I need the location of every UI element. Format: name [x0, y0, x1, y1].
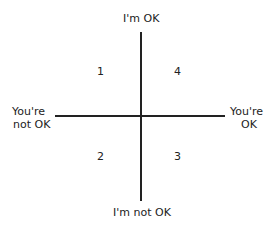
quadrant-1: 1 — [97, 66, 104, 78]
label-right-line1: You're — [230, 106, 263, 118]
vertical-axis — [140, 32, 142, 201]
label-left-line2: not OK — [13, 119, 50, 131]
label-right-line2: OK — [241, 119, 257, 131]
quadrant-2: 2 — [97, 151, 104, 163]
label-top: I'm OK — [123, 13, 159, 25]
quadrant-3: 3 — [174, 151, 181, 163]
label-bottom: I'm not OK — [113, 207, 171, 219]
label-left-line1: You're — [12, 106, 45, 118]
horizontal-axis — [55, 115, 225, 117]
quadrant-4: 4 — [174, 66, 181, 78]
